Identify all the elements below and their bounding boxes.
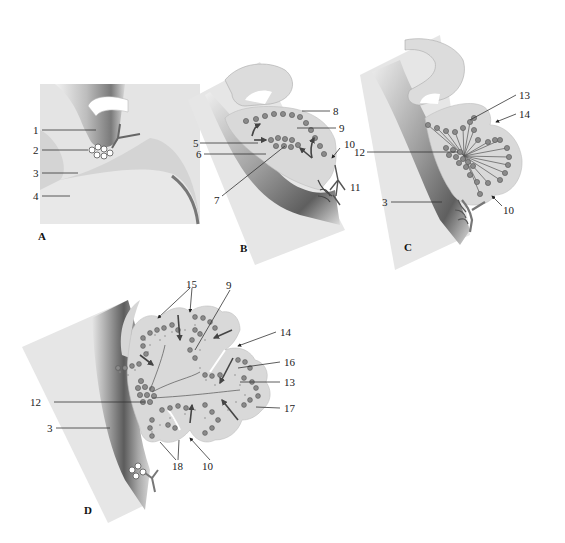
panel-label-d: D xyxy=(84,504,92,516)
callout-15: 15 xyxy=(186,278,198,290)
callout-16: 16 xyxy=(284,356,296,368)
callout-13: 13 xyxy=(519,89,531,101)
panel-d: 15 9 14 16 13 12 17 3 18 10 D xyxy=(22,278,296,523)
callout-14-d: 14 xyxy=(280,326,292,338)
callout-4: 4 xyxy=(33,190,39,202)
callout-12-d: 12 xyxy=(30,396,41,408)
callout-7: 7 xyxy=(214,194,220,206)
callout-8: 8 xyxy=(333,105,339,117)
panel-b: 5 6 7 8 9 10 11 B xyxy=(188,62,361,265)
callout-3: 3 xyxy=(33,167,39,179)
callout-14: 14 xyxy=(519,108,531,120)
callout-10-c: 10 xyxy=(503,204,515,216)
callout-18: 18 xyxy=(172,460,184,472)
callout-6: 6 xyxy=(196,148,202,160)
panel-label-a: A xyxy=(38,230,46,242)
callout-9: 9 xyxy=(339,122,345,134)
callout-2: 2 xyxy=(33,144,39,156)
callout-3-d: 3 xyxy=(47,422,53,434)
panel-label-b: B xyxy=(240,242,248,254)
panel-label-c: C xyxy=(404,241,412,253)
panel-c: 13 14 12 3 10 C xyxy=(354,35,531,270)
callout-9-d: 9 xyxy=(226,279,232,291)
callout-12: 12 xyxy=(354,146,365,158)
callout-11: 11 xyxy=(350,181,361,193)
callout-17: 17 xyxy=(284,402,296,414)
embryology-figure: 1 2 3 4 A xyxy=(0,0,565,543)
callout-3-c: 3 xyxy=(382,196,388,208)
callout-10-d: 10 xyxy=(202,460,214,472)
callout-13-d: 13 xyxy=(284,376,296,388)
callout-1: 1 xyxy=(33,124,39,136)
panel-d-lobulated-bud xyxy=(127,306,270,442)
panel-a: 1 2 3 4 A xyxy=(33,84,200,242)
